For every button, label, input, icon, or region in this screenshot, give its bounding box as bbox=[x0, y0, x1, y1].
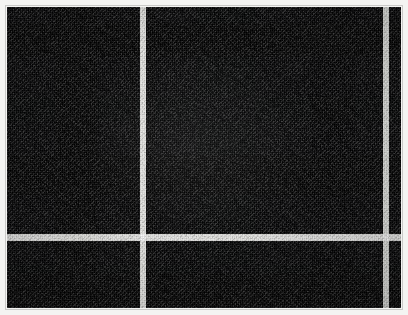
white-warp-stripe-right bbox=[383, 7, 389, 308]
white-weft-stripe-main bbox=[7, 234, 401, 241]
white-warp-stripe-main bbox=[140, 7, 146, 308]
fabric-swatch bbox=[7, 7, 401, 308]
screenshot-root bbox=[0, 0, 408, 315]
overcheck-stripe-group bbox=[7, 7, 401, 308]
